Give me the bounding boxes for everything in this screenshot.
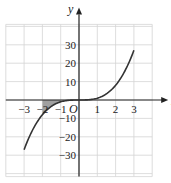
y-tick-label: 20: [65, 57, 77, 69]
y-tick-label: −30: [59, 149, 77, 161]
x-tick-label: 2: [113, 103, 119, 115]
x-axis-arrow-icon: [161, 97, 168, 103]
y-tick-label: −20: [59, 131, 77, 143]
y-axis-arrow-icon: [76, 7, 82, 14]
x-tick-label: 1: [95, 103, 101, 115]
x-tick-label: −2: [37, 103, 49, 115]
y-axis-label: y: [67, 2, 74, 16]
y-tick-label: 30: [65, 39, 77, 51]
origin-label: O: [69, 102, 78, 116]
cubic-function-chart: −3−2−1123302010−10−20−30 x y O: [0, 0, 171, 183]
x-tick-label: −3: [18, 103, 30, 115]
axes: [6, 7, 168, 176]
x-axis-label: x: [170, 94, 171, 108]
y-tick-label: 10: [65, 76, 77, 88]
x-tick-label: 3: [131, 103, 137, 115]
